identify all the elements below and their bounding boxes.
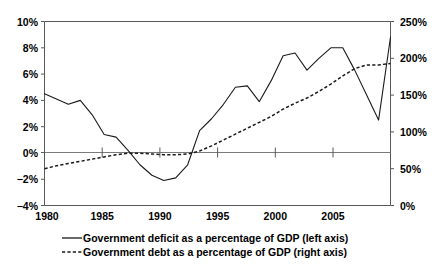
right-tick-label-100: 100% (400, 126, 428, 138)
left-tick-label-6: 6% (23, 68, 39, 80)
right-tick-label-0: 0% (400, 200, 416, 212)
x-tick-label-1990: 1990 (148, 210, 172, 222)
dual-axis-line-chart: 10% 8% 6% 4% 2% 0% −2% −4% 250% 200% 150… (0, 0, 439, 271)
right-tick-label-200: 200% (400, 52, 428, 64)
right-tick-label-150: 150% (400, 89, 428, 101)
left-tick-label-minus2: −2% (17, 173, 39, 185)
left-tick-label-2: 2% (23, 121, 39, 133)
chart-background (0, 0, 439, 271)
x-tick-label-1995: 1995 (206, 210, 230, 222)
right-tick-label-250: 250% (400, 16, 428, 28)
legend-label-deficit: Government deficit as a percentage of GD… (83, 232, 348, 244)
x-tick-label-1985: 1985 (91, 210, 115, 222)
chart-figure: 10% 8% 6% 4% 2% 0% −2% −4% 250% 200% 150… (0, 0, 439, 271)
left-tick-label-8: 8% (23, 42, 39, 54)
right-tick-label-50: 50% (400, 163, 422, 175)
left-tick-label-0: 0% (23, 147, 39, 159)
x-tick-label-1980: 1980 (35, 210, 59, 222)
x-tick-label-2000: 2000 (264, 210, 288, 222)
left-tick-label-10: 10% (17, 16, 39, 28)
legend-label-debt: Government debt as a percentage of GDP (… (83, 246, 347, 258)
x-tick-label-2005: 2005 (321, 210, 345, 222)
left-tick-label-4: 4% (23, 94, 39, 106)
